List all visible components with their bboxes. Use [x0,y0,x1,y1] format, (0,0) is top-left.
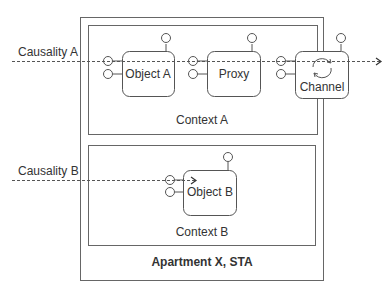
object-a-interface-2-icon [104,70,113,79]
channel-label: Channel [300,80,345,94]
object-b-interface-2-icon [166,188,175,197]
channel-interface-2-icon [277,70,286,79]
object-b-top-interface-icon [224,153,233,162]
context-b-label: Context B [176,225,229,239]
proxy-top-interface-icon [248,34,257,43]
apartment-label: Apartment X, STA [151,255,252,269]
proxy-interface-2-icon [189,70,198,79]
context-a-label: Context A [176,113,228,127]
apartment-box [81,18,324,281]
apartment-diagram: Apartment X, STA Context A Context B Obj… [0,0,386,294]
causality-b-label: Causality B [18,164,79,178]
channel: Channel [277,34,349,99]
channel-top-interface-icon [337,34,346,43]
object-b: Object B [166,153,237,216]
proxy-label: Proxy [219,67,250,81]
object-a: Object A [104,34,175,97]
object-a-top-interface-icon [162,34,171,43]
proxy: Proxy [189,34,261,97]
object-b-label: Object B [187,185,233,199]
object-a-label: Object A [125,67,170,81]
causality-a-label: Causality A [18,45,78,59]
